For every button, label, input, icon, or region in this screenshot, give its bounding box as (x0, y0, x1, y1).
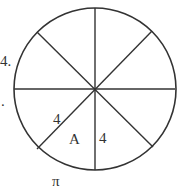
radius-label-vertical: 4 (99, 130, 107, 146)
radius-label-diagonal: 4 (53, 111, 61, 127)
arc-label: π (52, 173, 60, 189)
problem-number-label: 4. (0, 53, 11, 69)
circle-diagram: 4. . 4 A 4 π (0, 0, 178, 191)
left-mark: . (1, 93, 5, 109)
sector-label: A (69, 131, 80, 147)
